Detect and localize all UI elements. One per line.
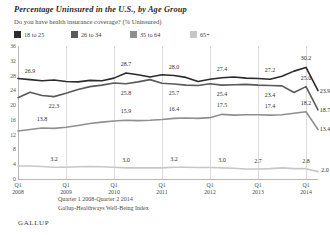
data-point-label: 23.4: [265, 92, 276, 98]
x-tick-quarter: Q1: [108, 182, 120, 189]
x-tick-label: Q12011: [156, 182, 167, 196]
data-point-label: 13.8: [37, 116, 48, 122]
y-tick-label: 36: [10, 43, 16, 49]
data-point-label: 17.5: [217, 102, 228, 108]
data-point-label: 17.4: [265, 103, 276, 109]
data-point-label: 18.7: [320, 107, 330, 113]
x-tick-year: 2011: [156, 189, 167, 196]
chart-title: Percentage Uninsured in the U.S., by Age…: [14, 5, 187, 14]
plot-area: 04812162024283236 26.928.728.027.427.230…: [18, 46, 318, 179]
data-point-label: 28.7: [121, 61, 132, 67]
legend-label: 18 to 25: [24, 31, 44, 38]
data-point-label: 15.9: [121, 108, 132, 114]
gallup-logo: GALLUP: [18, 219, 49, 227]
footer-date-range: Quarter 1 2008-Quarter 2 2014: [58, 196, 133, 202]
y-tick-label: 16: [10, 117, 16, 123]
data-point-label: 2.0: [321, 167, 329, 173]
x-axis-line: [18, 179, 318, 180]
legend-label: 65+: [200, 31, 210, 38]
x-tick-quarter: Q1: [60, 182, 72, 189]
legend-label: 26 to 34: [81, 31, 101, 38]
legend-label: 35 to 64: [140, 31, 160, 38]
data-point-label: 30.2: [301, 55, 312, 61]
legend-item-35-to-64[interactable]: 35 to 64: [130, 31, 160, 38]
data-point-label: 18.2: [301, 100, 312, 106]
y-tick-label: 28: [10, 73, 16, 79]
data-point-label: 27.2: [265, 67, 276, 73]
data-point-label: 22.3: [49, 103, 60, 109]
legend-item-65-[interactable]: 65+: [190, 31, 210, 38]
x-tick-year: 2008: [12, 189, 24, 196]
y-tick-label: 8: [13, 146, 16, 152]
legend-item-18-to-25[interactable]: 18 to 25: [14, 31, 44, 38]
data-point-label: 27.4: [217, 66, 228, 72]
data-point-label: 3.0: [218, 157, 226, 163]
x-tick-quarter: Q1: [156, 182, 167, 189]
legend-swatch-icon: [71, 31, 78, 38]
x-tick-label: Q12008: [12, 182, 24, 196]
y-tick-label: 24: [10, 87, 16, 93]
x-tick-year: 2009: [60, 189, 72, 196]
data-point-label: 26.9: [25, 68, 36, 74]
data-point-label: 25.8: [121, 90, 132, 96]
data-point-label: 25.7: [169, 90, 180, 96]
data-point-label: 13.4: [320, 126, 330, 132]
data-point-label: 2.8: [302, 158, 310, 164]
data-point-label: 3.0: [122, 157, 130, 163]
x-tick-year: 2013: [252, 189, 264, 196]
data-point-label: 3.2: [170, 156, 178, 162]
data-point-label: 16.4: [169, 106, 180, 112]
footer-source: Gallup-Healthways Well-Being Index: [58, 205, 149, 211]
legend-item-26-to-34[interactable]: 26 to 34: [71, 31, 101, 38]
data-point-label: 2.7: [254, 158, 262, 164]
line-series-65-: [18, 166, 318, 172]
data-point-label: 25.4: [217, 91, 228, 97]
y-tick-label: 4: [13, 161, 16, 167]
x-tick-quarter: Q1: [252, 182, 264, 189]
y-tick-label: 12: [10, 132, 16, 138]
data-point-label: 25.0: [301, 75, 312, 81]
x-tick-year: 2010: [108, 189, 120, 196]
chart-subtitle: Do you have health insurance coverage? (…: [14, 18, 161, 25]
y-tick-label: 32: [10, 58, 16, 64]
x-tick-quarter: Q1: [204, 182, 216, 189]
line-series-35-to-64: [18, 112, 318, 131]
x-tick-label: Q12012: [204, 182, 216, 196]
x-tick-year: 2014: [300, 189, 312, 196]
x-tick-label: Q12009: [60, 182, 72, 196]
legend-swatch-icon: [130, 31, 137, 38]
data-point-label: 23.9: [320, 88, 330, 94]
legend-swatch-icon: [190, 31, 197, 38]
y-tick-label: 20: [10, 102, 16, 108]
x-tick-label: Q12014: [300, 182, 312, 196]
x-tick-label: Q12013: [252, 182, 264, 196]
x-tick-year: 2012: [204, 189, 216, 196]
x-tick-label: Q12010: [108, 182, 120, 196]
data-point-label: 28.0: [169, 64, 180, 70]
legend-swatch-icon: [14, 31, 21, 38]
x-tick-quarter: Q1: [12, 182, 24, 189]
data-point-label: 3.2: [50, 156, 58, 162]
x-tick-quarter: Q1: [300, 182, 312, 189]
